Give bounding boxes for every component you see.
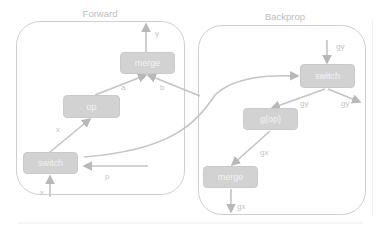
forward-merge-node: merge bbox=[120, 52, 175, 74]
label-x-op: x bbox=[56, 125, 60, 134]
edges-layer bbox=[0, 0, 380, 234]
label-gx-out: gx bbox=[237, 202, 245, 211]
edge-b-to-merge bbox=[148, 75, 200, 96]
forward-op-node: op bbox=[63, 95, 120, 118]
label-gy-in: gy bbox=[336, 42, 344, 51]
label-b: b bbox=[160, 83, 164, 92]
backprop-switch-node: switch bbox=[300, 64, 355, 88]
label-gy-right: gy bbox=[341, 99, 349, 108]
label-p: p bbox=[105, 172, 109, 181]
backprop-merge-node: merge bbox=[203, 166, 258, 188]
edge-switch-to-gop bbox=[272, 89, 325, 108]
label-gx-mid: gx bbox=[260, 148, 268, 157]
label-x-in: x bbox=[40, 188, 44, 197]
backprop-gop-node: g(op) bbox=[243, 108, 298, 130]
label-gy-left: gy bbox=[300, 99, 308, 108]
diagram-canvas: Forward Backprop bbox=[0, 0, 380, 234]
label-a: a bbox=[121, 83, 125, 92]
label-y: y bbox=[155, 29, 159, 38]
edge-switch-to-op bbox=[50, 119, 90, 152]
forward-switch-node: switch bbox=[23, 152, 78, 174]
